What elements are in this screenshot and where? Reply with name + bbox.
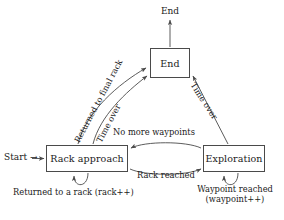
state-diagram: Rack approach Exploration End End Start …	[0, 0, 284, 220]
state-label-rack-approach: Rack approach	[50, 153, 124, 164]
terminal-label-end: End	[151, 6, 189, 16]
state-label-exploration: Exploration	[205, 153, 262, 164]
state-node-rack-approach[interactable]: Rack approach	[46, 145, 128, 172]
edge-exploration-self-loop	[224, 173, 238, 185]
edge-label-waypoint-reached: Waypoint reached (waypoint++)	[190, 185, 280, 204]
edge-label-returned-to-a-rack: Returned to a rack (rack++)	[13, 188, 134, 198]
state-node-exploration[interactable]: Exploration	[203, 145, 265, 172]
edge-label-no-more-waypoints: No more waypoints	[113, 128, 195, 138]
terminal-label-start: Start →	[4, 152, 37, 162]
state-label-end: End	[160, 58, 179, 69]
edge-rack-approach-self-loop	[74, 173, 88, 185]
state-node-end[interactable]: End	[150, 48, 190, 78]
edge-label-waypoint-reached-line1: Waypoint reached	[197, 184, 273, 194]
edge-exploration-to-rack-no-more-waypoints	[131, 143, 201, 148]
edge-label-rack-reached: Rack reached	[137, 171, 195, 181]
edge-label-waypoint-reached-line2: (waypoint++)	[190, 195, 280, 205]
